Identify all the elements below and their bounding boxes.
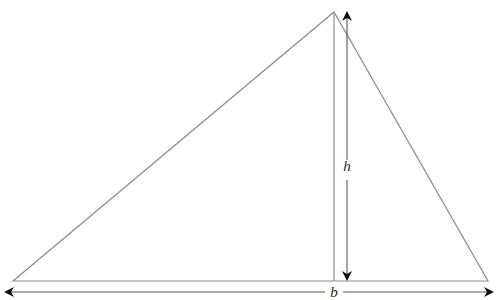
height-label: h [343, 158, 351, 174]
triangle-diagram: h b [0, 0, 498, 300]
triangle [13, 12, 488, 281]
base-label: b [330, 284, 338, 300]
